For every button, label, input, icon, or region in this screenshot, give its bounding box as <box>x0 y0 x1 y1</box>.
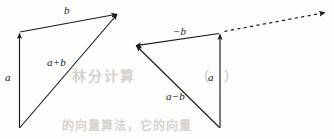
label-vector-b-left: b <box>64 5 70 16</box>
vector-a-minus-b-arrow <box>137 46 220 128</box>
label-vector-a-plus-b: a+b <box>47 57 66 68</box>
vector-canvas <box>0 0 334 139</box>
dashed-extension-ray <box>225 13 326 32</box>
vector-b-left-arrow <box>20 14 117 32</box>
label-vector-negative-b: −b <box>173 26 186 37</box>
vector-addition-diagram <box>20 14 118 128</box>
label-vector-a-left: a <box>5 72 11 83</box>
label-vector-a-minus-b: a−b <box>166 91 185 102</box>
figure-root: 林分计算 （ ） 的向量算法，它的向量 <box>0 0 334 139</box>
vector-a-plus-b-arrow <box>20 15 117 128</box>
vector-subtraction-diagram <box>136 13 325 128</box>
label-vector-a-right: a <box>208 72 214 83</box>
